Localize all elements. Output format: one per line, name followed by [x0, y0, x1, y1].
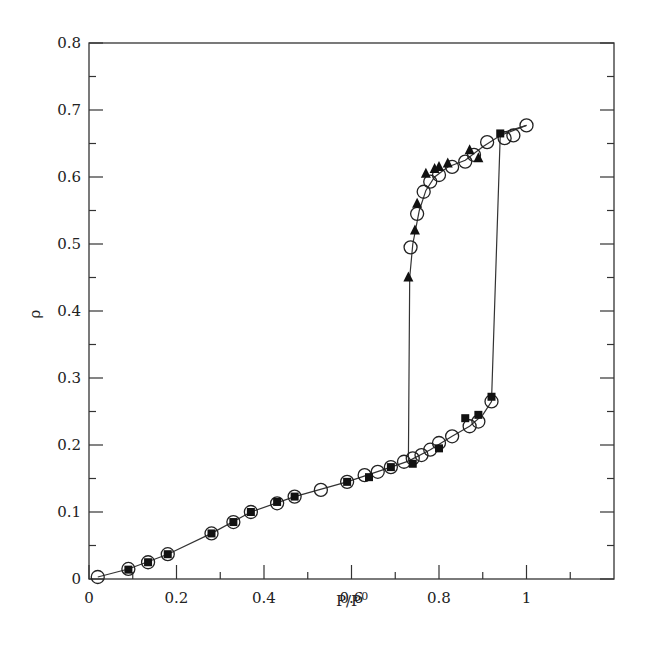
filled-triangle-marker [465, 144, 475, 154]
x-tick-label: 0.2 [165, 589, 189, 607]
filled-square-marker [496, 129, 504, 137]
x-axis-label: P/P0 [336, 590, 368, 610]
filled-square-marker [387, 463, 395, 471]
plot-border [89, 43, 614, 579]
filled-square-marker [488, 393, 496, 401]
filled-triangle-marker [410, 225, 420, 235]
filled-square-marker [273, 498, 281, 506]
y-tick-label: 0.4 [57, 302, 81, 320]
filled-square-marker [208, 529, 216, 537]
x-tick-label: 1 [522, 589, 532, 607]
filled-square-marker [461, 414, 469, 422]
open-circle-marker [404, 241, 417, 254]
open-circle-marker [91, 570, 104, 583]
y-tick-label: 0.5 [57, 235, 81, 253]
filled-triangle-marker [412, 198, 422, 208]
filled-square-marker [229, 518, 237, 526]
filled-triangle-marker [421, 168, 431, 178]
filled-square-marker [409, 460, 417, 468]
y-axis-label: ρ [26, 309, 44, 318]
adsorption-branch-line [98, 125, 527, 577]
filled-square-marker [343, 478, 351, 486]
filled-square-marker [365, 473, 373, 481]
open-circle-marker [398, 455, 411, 468]
y-tick-label: 0 [71, 570, 81, 588]
y-tick-label: 0.1 [57, 503, 81, 521]
filled-square-marker [247, 508, 255, 516]
y-tick-label: 0.2 [57, 436, 81, 454]
hysteresis-chart: 00.20.40.60.8100.10.20.30.40.50.60.70.8 … [0, 0, 649, 663]
data-markers [91, 119, 533, 584]
open-circle-marker [481, 136, 494, 149]
filled-triangle-marker [473, 152, 483, 162]
filled-square-marker [435, 444, 443, 452]
curve-lines [98, 125, 527, 577]
x-tick-label: 0.8 [427, 589, 451, 607]
plot-frame [89, 43, 614, 579]
y-tick-label: 0.7 [57, 101, 81, 119]
y-tick-label: 0.3 [57, 369, 81, 387]
filled-square-marker [124, 566, 132, 574]
filled-triangle-marker [403, 272, 413, 282]
filled-triangle-marker [443, 158, 453, 168]
x-tick-label: 0.4 [252, 589, 276, 607]
open-circle-marker [314, 483, 327, 496]
y-tick-label: 0.6 [57, 168, 81, 186]
filled-square-marker [474, 411, 482, 419]
x-tick-label: 0 [84, 589, 94, 607]
filled-square-marker [144, 558, 152, 566]
filled-square-marker [164, 550, 172, 558]
filled-square-marker [291, 493, 299, 501]
open-circle-marker [411, 207, 424, 220]
y-tick-label: 0.8 [57, 34, 81, 52]
